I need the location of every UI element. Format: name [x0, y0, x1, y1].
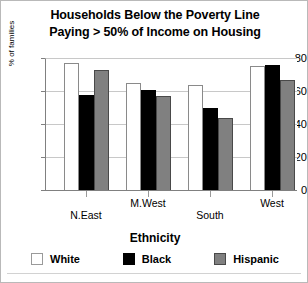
x-tick-label-south: South [196, 209, 223, 221]
bar-south-hispanic [218, 118, 233, 191]
x-tick-label-n-east: N.East [70, 209, 102, 221]
chart-title-line-1: Households Below the Poverty Line [1, 7, 308, 24]
legend-divider [7, 273, 301, 274]
x-tick-label-west: West [260, 197, 284, 209]
bar-group-west [250, 59, 295, 191]
legend-item-black: Black [123, 253, 171, 265]
bar-m-west-white [126, 83, 141, 191]
chart-title: Households Below the Poverty Line Paying… [1, 7, 308, 41]
bar-n-east-black [79, 95, 94, 191]
bar-west-white [250, 66, 265, 191]
legend-swatch-hispanic [214, 253, 226, 265]
bar-m-west-hispanic [156, 96, 171, 191]
legend-label-black: Black [142, 253, 171, 265]
legend-title: Ethnicity [1, 231, 308, 245]
bar-group-m-west [126, 59, 171, 191]
bar-m-west-black [141, 90, 156, 191]
bar-group-n-east [64, 59, 109, 191]
x-axis-baseline [45, 190, 297, 191]
legend: White Black Hispanic [31, 253, 279, 265]
bar-south-black [203, 108, 218, 191]
bar-group-south [188, 59, 233, 191]
x-tick-label-m-west: M.West [130, 197, 165, 209]
bar-south-white [188, 85, 203, 191]
bar-west-hispanic [280, 80, 295, 191]
legend-item-hispanic: Hispanic [214, 253, 279, 265]
plot-area [45, 58, 297, 191]
x-tick-mark-n-east [86, 191, 87, 197]
legend-item-white: White [31, 253, 80, 265]
chart-title-line-2: Paying > 50% of Income on Housing [1, 24, 308, 41]
legend-label-white: White [50, 253, 80, 265]
x-tick-mark-south [210, 191, 211, 197]
bar-west-black [265, 65, 280, 191]
bar-n-east-white [64, 63, 79, 191]
legend-swatch-black [123, 253, 135, 265]
bar-n-east-hispanic [94, 70, 109, 191]
y-axis-title: % of families [7, 8, 16, 80]
legend-label-hispanic: Hispanic [233, 253, 279, 265]
poverty-housing-bar-chart: Households Below the Poverty Line Paying… [0, 0, 308, 283]
legend-swatch-white [31, 253, 43, 265]
